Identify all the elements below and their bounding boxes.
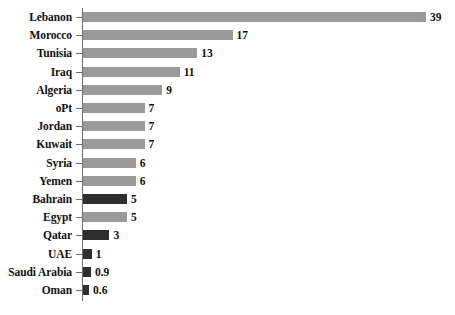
bar-group: 11 [83,63,195,81]
bar [83,67,180,77]
category-label: Syria [0,154,72,172]
bar-value-label: 0.9 [95,267,109,277]
axis-tick [76,217,82,218]
axis-tick [76,35,82,36]
bar [83,194,127,204]
chart-row: Tunisia13 [0,44,455,62]
category-label: Saudi Arabia [0,263,72,281]
axis-tick [76,108,82,109]
category-label: UAE [0,245,72,263]
axis-tick [76,272,82,273]
chart-row: Yemen6 [0,172,455,190]
axis-tick [76,254,82,255]
bar-value-label: 7 [149,139,155,149]
axis-tick [76,72,82,73]
axis-tick [76,126,82,127]
category-label: Morocco [0,26,72,44]
bar-value-label: 17 [237,30,249,40]
chart-row: oPt7 [0,99,455,117]
category-label: Egypt [0,208,72,226]
axis-tick [76,290,82,291]
chart-row: Qatar3 [0,226,455,244]
bar [83,30,233,40]
bar [83,158,136,168]
chart-row: Egypt5 [0,208,455,226]
chart-row: Jordan7 [0,117,455,135]
axis-tick [76,163,82,164]
bar-group: 7 [83,117,154,135]
bar [83,249,92,259]
bar-group: 3 [83,226,119,244]
chart-row: Lebanon39 [0,8,455,26]
category-label: Iraq [0,63,72,81]
bar [83,12,426,22]
bar [83,212,127,222]
bar-value-label: 7 [149,103,155,113]
bar [83,121,145,131]
bar-value-label: 3 [113,230,119,240]
axis-tick [76,53,82,54]
bar-chart: Lebanon39Morocco17Tunisia13Iraq11Algeria… [0,0,455,315]
bar-group: 17 [83,26,248,44]
axis-tick [76,235,82,236]
bar [83,85,162,95]
category-label: Jordan [0,117,72,135]
category-label: Qatar [0,226,72,244]
bar-value-label: 6 [140,176,146,186]
axis-tick [76,199,82,200]
category-label: oPt [0,99,72,117]
bar [83,230,109,240]
bar-value-label: 7 [149,121,155,131]
chart-row: Syria6 [0,154,455,172]
bar-group: 6 [83,154,146,172]
category-label: Lebanon [0,8,72,26]
bar-value-label: 6 [140,158,146,168]
category-label: Bahrain [0,190,72,208]
bar [83,48,197,58]
chart-row: UAE1 [0,245,455,263]
category-label: Oman [0,281,72,299]
axis-tick [76,17,82,18]
bar-group: 13 [83,44,213,62]
bar-group: 39 [83,8,442,26]
chart-row: Algeria9 [0,81,455,99]
category-label: Kuwait [0,135,72,153]
bar-group: 9 [83,81,172,99]
chart-row: Bahrain5 [0,190,455,208]
bar-group: 1 [83,245,102,263]
bar-value-label: 5 [131,212,137,222]
bar-value-label: 39 [430,12,442,22]
bar-value-label: 9 [166,85,172,95]
bar [83,103,145,113]
bar-group: 0.9 [83,263,109,281]
axis-tick [76,90,82,91]
bar-group: 7 [83,135,154,153]
axis-tick [76,181,82,182]
bar-value-label: 0.6 [93,285,107,295]
axis-tick [76,144,82,145]
chart-row: Saudi Arabia0.9 [0,263,455,281]
bar [83,267,91,277]
bar-group: 6 [83,172,146,190]
bar [83,285,89,295]
bar-group: 0.6 [83,281,107,299]
category-label: Tunisia [0,44,72,62]
bar-group: 7 [83,99,154,117]
chart-row: Oman0.6 [0,281,455,299]
bar [83,176,136,186]
bar [83,139,145,149]
bar-group: 5 [83,208,137,226]
chart-row: Iraq11 [0,63,455,81]
bar-value-label: 13 [201,48,213,58]
bar-value-label: 5 [131,194,137,204]
plot-area: Lebanon39Morocco17Tunisia13Iraq11Algeria… [0,8,455,301]
chart-row: Kuwait7 [0,135,455,153]
bar-value-label: 11 [184,67,195,77]
category-label: Yemen [0,172,72,190]
bar-group: 5 [83,190,137,208]
chart-row: Morocco17 [0,26,455,44]
category-label: Algeria [0,81,72,99]
bar-value-label: 1 [96,249,102,259]
